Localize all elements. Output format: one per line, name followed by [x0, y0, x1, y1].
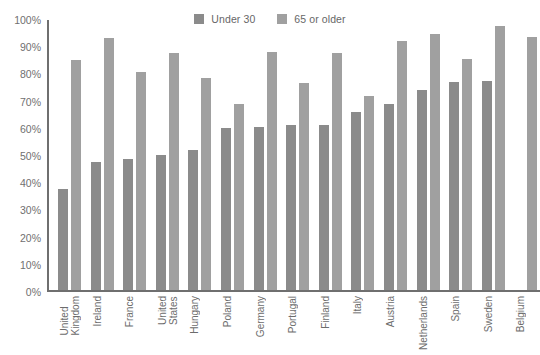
bar-65-or-older — [267, 52, 277, 290]
bar-under-30 — [286, 125, 296, 290]
x-axis-category-label: Germany — [255, 296, 266, 337]
x-axis-line — [47, 290, 540, 292]
x-axis-category-label: France — [124, 296, 135, 327]
bar-group — [482, 20, 505, 290]
x-axis-category-label: Finland — [320, 296, 331, 329]
x-axis-category-label: Sweden — [483, 296, 494, 332]
bar-under-30 — [351, 112, 361, 290]
bar-chart: Under 30 65 or older 0%10%20%30%40%50%60… — [0, 0, 540, 355]
bar-under-30 — [254, 127, 264, 290]
bar-under-30 — [319, 125, 329, 290]
y-axis-tick-label: 90% — [20, 41, 41, 53]
bar-group — [514, 20, 537, 290]
bar-65-or-older — [397, 41, 407, 290]
bar-65-or-older — [332, 53, 342, 290]
bar-group — [123, 20, 146, 290]
y-axis-tick-labels: 0%10%20%30%40%50%60%70%80%90%100% — [0, 20, 41, 292]
bar-65-or-older — [462, 59, 472, 290]
y-axis-tick-label: 0% — [26, 286, 41, 298]
bar-group — [286, 20, 309, 290]
y-axis-tick-label: 80% — [20, 68, 41, 80]
bar-65-or-older — [364, 96, 374, 290]
x-axis-category-label: Spain — [450, 296, 461, 322]
x-axis-category-label: Belgium — [515, 296, 526, 332]
y-axis-tick-label: 30% — [20, 204, 41, 216]
bar-group — [384, 20, 407, 290]
bar-under-30 — [58, 189, 68, 290]
bar-65-or-older — [201, 78, 211, 290]
bar-65-or-older — [71, 60, 81, 290]
bar-under-30 — [482, 81, 492, 290]
bar-65-or-older — [136, 72, 146, 290]
bar-65-or-older — [234, 104, 244, 290]
bar-groups — [49, 20, 540, 290]
x-axis-category-label: Netherlands — [418, 296, 429, 350]
x-axis-category-label: Poland — [222, 296, 233, 327]
bar-group — [417, 20, 440, 290]
bar-65-or-older — [430, 34, 440, 290]
x-axis-category-label: Hungary — [189, 296, 200, 334]
x-axis-category-label: UnitedStates — [157, 296, 179, 325]
plot-area — [47, 20, 540, 292]
y-axis-tick-label: 60% — [20, 123, 41, 135]
y-axis-tick-label: 70% — [20, 96, 41, 108]
bar-group — [188, 20, 211, 290]
x-axis-category-label: UnitedKingdom — [59, 296, 81, 335]
bar-65-or-older — [104, 38, 114, 290]
bar-group — [254, 20, 277, 290]
bar-under-30 — [91, 162, 101, 290]
bar-group — [58, 20, 81, 290]
bar-under-30 — [188, 150, 198, 290]
bar-65-or-older — [299, 83, 309, 290]
y-axis-tick-label: 100% — [14, 14, 41, 26]
bar-group — [91, 20, 114, 290]
y-axis-tick-label: 40% — [20, 177, 41, 189]
bar-group — [221, 20, 244, 290]
bar-under-30 — [123, 159, 133, 290]
bar-65-or-older — [527, 37, 537, 290]
bar-under-30 — [221, 128, 231, 290]
bar-under-30 — [417, 90, 427, 290]
bar-group — [449, 20, 472, 290]
x-axis-category-label: Ireland — [92, 296, 103, 327]
bar-group — [351, 20, 374, 290]
x-axis-category-labels: UnitedKingdomIrelandFranceUnitedStatesHu… — [49, 296, 540, 355]
x-axis-category-label: Portugal — [287, 296, 298, 333]
x-axis-category-label: Italy — [352, 296, 363, 314]
bar-under-30 — [384, 104, 394, 290]
bar-under-30 — [156, 155, 166, 290]
y-axis-tick-label: 50% — [20, 150, 41, 162]
bar-under-30 — [449, 82, 459, 290]
x-axis-category-label: Austria — [385, 296, 396, 327]
bar-group — [319, 20, 342, 290]
y-axis-tick-label: 10% — [20, 259, 41, 271]
bar-group — [156, 20, 179, 290]
bar-65-or-older — [495, 26, 505, 290]
y-axis-tick-label: 20% — [20, 232, 41, 244]
bar-65-or-older — [169, 53, 179, 290]
